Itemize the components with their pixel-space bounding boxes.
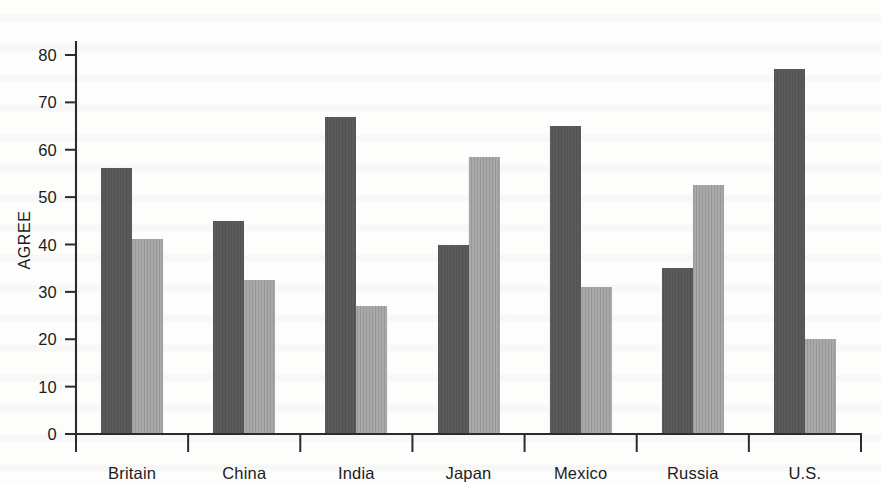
x-tick-label-china: China <box>222 464 267 482</box>
bar-russia-series-1-dark <box>662 268 693 434</box>
bar-japan-series-2-light <box>469 157 500 434</box>
y-tick-label-0: 0 <box>48 425 57 443</box>
bar-britain-series-1-dark <box>101 168 132 434</box>
y-tick-label-80: 80 <box>38 46 57 64</box>
x-tick-label-india: India <box>338 464 375 482</box>
x-tick-label-britain: Britain <box>108 464 156 482</box>
chart-canvas: 01020304050607080BritainChinaIndiaJapanM… <box>0 0 881 485</box>
bars-layer <box>101 69 836 434</box>
bar-mexico-series-2-light <box>581 287 612 434</box>
y-axis-title: AGREE <box>16 210 33 269</box>
y-tick-label-10: 10 <box>38 378 57 396</box>
y-tick-label-50: 50 <box>38 188 57 206</box>
x-tick-label-japan: Japan <box>446 464 492 482</box>
y-tick-label-20: 20 <box>38 330 57 348</box>
bar-chart: 01020304050607080BritainChinaIndiaJapanM… <box>0 0 881 485</box>
bar-japan-series-1-dark <box>438 245 469 435</box>
y-tick-label-40: 40 <box>38 236 57 254</box>
x-tick-label-us: U.S. <box>788 464 821 482</box>
bar-china-series-1-dark <box>213 221 244 434</box>
bar-china-series-2-light <box>244 280 275 434</box>
y-tick-label-60: 60 <box>38 141 57 159</box>
bar-us-series-2-light <box>805 339 836 434</box>
bar-india-series-1-dark <box>325 117 356 434</box>
bar-britain-series-2-light <box>132 239 163 434</box>
x-tick-label-mexico: Mexico <box>554 464 607 482</box>
y-tick-label-70: 70 <box>38 93 57 111</box>
x-tick-label-russia: Russia <box>667 464 719 482</box>
bar-india-series-2-light <box>356 306 387 434</box>
y-tick-label-30: 30 <box>38 283 57 301</box>
bar-us-series-1-dark <box>774 69 805 434</box>
bar-russia-series-2-light <box>693 185 724 434</box>
bar-mexico-series-1-dark <box>550 126 581 434</box>
